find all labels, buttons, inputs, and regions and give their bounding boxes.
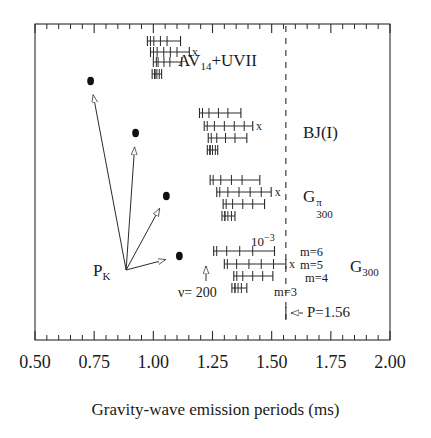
- x-tick-label: 1.00: [127, 352, 179, 373]
- g300pi-sup: π: [316, 197, 322, 208]
- m3-label: m=3: [274, 286, 297, 299]
- error-bar-clusters: xxxx: [147, 36, 295, 293]
- pk-sub: K: [102, 270, 110, 282]
- av-main: AV: [178, 51, 200, 70]
- group-label-bj-i: BJ(I): [303, 124, 338, 141]
- m5-label: m=5: [300, 259, 323, 272]
- group-label-g300: G300: [350, 258, 379, 278]
- x-tick-label: 0.75: [68, 352, 120, 373]
- g300-sub: 300: [362, 266, 379, 278]
- x-tick-label: 2.00: [364, 352, 416, 373]
- x-tick-label: 0.50: [9, 352, 61, 373]
- x-tick-label: 1.75: [305, 352, 357, 373]
- group-label-g300-pi: G π 300: [303, 188, 315, 205]
- pk-arrows-and-points: [87, 77, 183, 270]
- m4-label: m=4: [305, 272, 328, 285]
- exponent-label: 10−3: [251, 233, 275, 248]
- g300-main: G: [350, 257, 362, 276]
- p-156-label: P=1.56: [307, 305, 350, 320]
- figure-container: xxxx AV14+UVII BJ(I) G π 300 G300 PK ν= …: [0, 0, 431, 438]
- pk-label: PK: [93, 262, 110, 282]
- exp-sup: −3: [264, 232, 275, 243]
- nu-200-label: ν= 200: [178, 286, 217, 300]
- g300pi-sub: 300: [316, 209, 333, 220]
- svg-text:x: x: [289, 257, 295, 271]
- av-tail: +UVII: [211, 51, 256, 70]
- x-tick-label: 1.50: [246, 352, 298, 373]
- svg-text:x: x: [275, 185, 281, 199]
- m6-label: m=6: [300, 246, 323, 259]
- g300pi-main: G: [303, 187, 315, 206]
- x-tick-label: 1.25: [187, 352, 239, 373]
- group-label-av14-uvii: AV14+UVII: [178, 52, 257, 72]
- bj-main: BJ(I): [303, 123, 338, 142]
- exp-base: 10: [251, 234, 264, 249]
- x-axis-title: Gravity-wave emission periods (ms): [0, 400, 431, 420]
- svg-text:x: x: [256, 119, 262, 133]
- av-sub: 14: [200, 60, 211, 72]
